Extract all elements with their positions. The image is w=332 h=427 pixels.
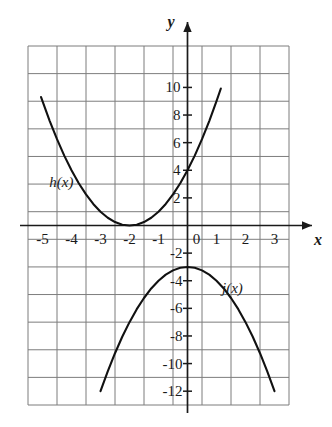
y-tick-label-neg2: -2 bbox=[170, 246, 183, 261]
y-tick-label-2: 2 bbox=[173, 191, 181, 206]
x-tick-label-0: 0 bbox=[193, 232, 201, 247]
x-tick-label-neg4: -4 bbox=[65, 232, 78, 247]
y-tick-label-neg12: -12 bbox=[163, 384, 183, 399]
x-axis-label: x bbox=[314, 232, 322, 248]
curve-label-j: j(x) bbox=[222, 281, 243, 296]
y-tick-label-neg10: -10 bbox=[163, 357, 183, 372]
y-tick-label-10: 10 bbox=[166, 80, 181, 95]
x-tick-label-2: 2 bbox=[242, 232, 250, 247]
curve-h bbox=[41, 89, 221, 226]
y-tick-label-4: 4 bbox=[173, 163, 181, 178]
curve-label-h: h(x) bbox=[49, 175, 73, 190]
x-tick-label-neg5: -5 bbox=[36, 232, 49, 247]
graph-figure: -5-4-3-2-10123108642-2-4-6-8-10-12yxh(x)… bbox=[0, 0, 332, 427]
y-tick-label-6: 6 bbox=[173, 136, 181, 151]
y-tick-label-neg4: -4 bbox=[170, 274, 183, 289]
y-axis-arrowhead bbox=[183, 22, 191, 32]
x-axis-arrowhead bbox=[302, 221, 312, 229]
x-tick-label-neg2: -2 bbox=[123, 232, 136, 247]
y-tick-label-neg6: -6 bbox=[170, 301, 183, 316]
x-tick-label-3: 3 bbox=[271, 232, 279, 247]
y-tick-label-8: 8 bbox=[173, 108, 181, 123]
y-axis-label: y bbox=[167, 14, 174, 30]
y-tick-label-neg8: -8 bbox=[170, 329, 183, 344]
x-tick-label-neg3: -3 bbox=[94, 232, 107, 247]
x-tick-label-1: 1 bbox=[213, 232, 221, 247]
x-tick-label-neg1: -1 bbox=[152, 232, 165, 247]
